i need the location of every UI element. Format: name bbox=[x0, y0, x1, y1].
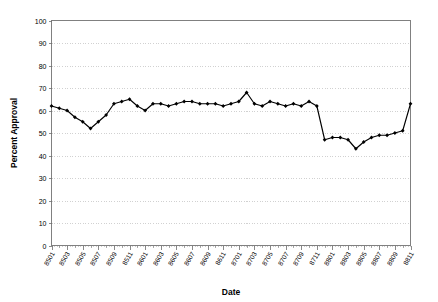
y-tick-label: 90 bbox=[39, 40, 47, 47]
y-tick-label: 60 bbox=[39, 108, 47, 115]
x-axis-title: Date bbox=[222, 287, 241, 297]
y-tick-label: 10 bbox=[39, 220, 47, 227]
y-axis-title: Percent Approval bbox=[9, 98, 19, 168]
chart-canvas: 0102030405060708090100 85018503850585078… bbox=[0, 0, 438, 302]
y-tick-label: 0 bbox=[43, 243, 47, 250]
y-tick-label: 50 bbox=[39, 130, 47, 137]
y-tick-label: 100 bbox=[35, 18, 47, 25]
approval-line-chart: 0102030405060708090100 85018503850585078… bbox=[0, 0, 438, 302]
y-tick-label: 70 bbox=[39, 85, 47, 92]
y-tick-label: 40 bbox=[39, 153, 47, 160]
y-tick-label: 80 bbox=[39, 63, 47, 70]
y-tick-label: 20 bbox=[39, 198, 47, 205]
y-tick-label: 30 bbox=[39, 175, 47, 182]
